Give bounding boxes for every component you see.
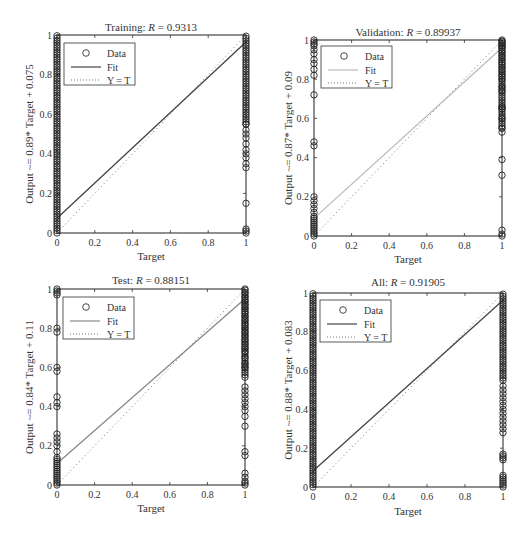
y-tick-label: 0.2 <box>40 188 53 199</box>
x-tick-label: 1 <box>243 489 248 500</box>
legend: Data Fit Y = T <box>64 43 135 86</box>
panel-training: Training: R = 0.9313 Output ~= 0.89* Tar… <box>23 21 249 262</box>
y-axis-label: Output ~= 0.89* Target + 0.075 <box>23 64 35 204</box>
y-tick-label: 1 <box>47 30 52 41</box>
y-axis-label: Output ~= 0.88* Target + 0.083 <box>282 320 294 460</box>
x-tick-label: 0.6 <box>421 240 434 251</box>
y-tick-label: 0.8 <box>40 323 53 334</box>
x-tick-label: 0 <box>55 237 60 248</box>
legend-fit: Fit <box>107 62 118 73</box>
legend-fit: Fit <box>107 316 118 327</box>
x-tick-label: 0.2 <box>88 489 101 500</box>
x-tick-label: 0.6 <box>164 237 177 248</box>
x-axis-label: Target <box>394 505 422 517</box>
x-tick-label: 1 <box>500 240 505 251</box>
y-tick-label: 1 <box>303 288 308 299</box>
x-tick-label: 0 <box>311 491 316 502</box>
y-tick-label: 0.8 <box>296 326 309 337</box>
x-tick-label: 0.6 <box>421 491 434 502</box>
x-tick-label: 0.8 <box>459 491 472 502</box>
y-axis-label: Output ~= 0.87* Target + 0.09 <box>282 70 294 205</box>
x-tick-label: 0.4 <box>126 489 139 500</box>
y-tick-label: 0.6 <box>297 113 310 124</box>
y-tick-label: 0 <box>47 480 52 491</box>
x-tick-label: 0.4 <box>383 491 396 502</box>
legend-fit: Fit <box>365 65 376 76</box>
y-tick-label: 0 <box>303 482 308 493</box>
legend-y-equals-t: Y = T <box>365 78 388 89</box>
x-tick-label: 0.8 <box>458 240 471 251</box>
x-tick-label: 0.8 <box>202 237 215 248</box>
y-tick-label: 1 <box>304 35 309 46</box>
panel-title: All: R = 0.91905 <box>371 276 446 288</box>
y-tick-label: 0.8 <box>297 74 310 85</box>
y-tick-label: 0 <box>304 231 309 242</box>
panel-title: Validation: R = 0.89937 <box>355 26 461 38</box>
y-tick-label: 0.4 <box>296 404 309 415</box>
x-tick-label: 0.6 <box>164 489 177 500</box>
legend: Data Fit Y = T <box>320 300 391 343</box>
y-tick-label: 0.2 <box>297 191 310 202</box>
x-axis-label: Target <box>137 502 165 514</box>
y-tick-label: 0.4 <box>297 152 310 163</box>
legend-data: Data <box>365 51 384 62</box>
y-tick-label: 0.2 <box>40 440 53 451</box>
panel-test: Test: R = 0.88151 Output ~= 0.84* Target… <box>23 274 248 514</box>
x-tick-label: 1 <box>244 237 249 248</box>
y-tick-label: 0 <box>47 228 52 239</box>
x-axis-label: Target <box>137 250 165 262</box>
legend-y-equals-t: Y = T <box>107 329 130 340</box>
y-tick-label: 1 <box>47 284 52 295</box>
legend-data: Data <box>107 302 126 313</box>
x-tick-label: 0 <box>55 489 60 500</box>
y-tick-label: 0.6 <box>40 109 53 120</box>
y-axis-label: Output ~= 0.84* Target + 0.11 <box>23 320 35 454</box>
y-tick-label: 0.4 <box>40 401 53 412</box>
y-tick-label: 0.4 <box>40 148 53 159</box>
x-tick-label: 0.8 <box>201 489 214 500</box>
y-tick-label: 0.2 <box>296 443 309 454</box>
legend: Data Fit Y = T <box>63 297 134 340</box>
x-tick-label: 0.2 <box>345 240 358 251</box>
y-tick-label: 0.6 <box>296 365 309 376</box>
legend: Data Fit Y = T <box>321 46 392 89</box>
panel-title: Test: R = 0.88151 <box>112 274 190 286</box>
x-tick-label: 0.4 <box>126 237 139 248</box>
x-tick-label: 0.4 <box>383 240 396 251</box>
legend-y-equals-t: Y = T <box>364 332 387 343</box>
x-tick-label: 0.2 <box>89 237 102 248</box>
legend-y-equals-t: Y = T <box>107 75 130 86</box>
legend-data: Data <box>107 48 126 59</box>
x-tick-label: 1 <box>501 491 506 502</box>
x-tick-label: 0 <box>312 240 317 251</box>
panel-validation: Validation: R = 0.89937 Output ~= 0.87* … <box>282 26 505 265</box>
x-axis-label: Target <box>394 253 422 265</box>
y-tick-label: 0.6 <box>40 362 53 373</box>
y-tick-label: 0.8 <box>40 69 53 80</box>
x-tick-label: 0.2 <box>345 491 358 502</box>
panel-all: All: R = 0.91905 Output ~= 0.88* Target … <box>282 276 506 517</box>
legend-fit: Fit <box>364 319 375 330</box>
legend-data: Data <box>364 305 383 316</box>
regression-figure: Training: R = 0.9313 Output ~= 0.89* Tar… <box>0 0 529 535</box>
panel-title: Training: R = 0.9313 <box>105 21 197 33</box>
